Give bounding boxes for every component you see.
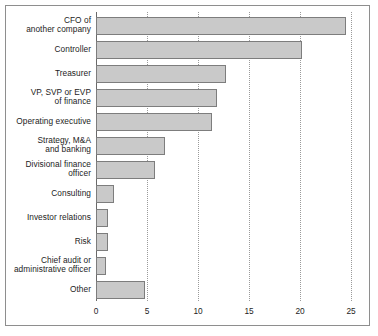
plot-area: CFO ofanother companyControllerTreasurer… — [96, 12, 366, 304]
category-label: Treasurer — [0, 69, 91, 78]
category-label: Divisional financeofficer — [0, 160, 91, 179]
tick-label-5: 5 — [145, 306, 150, 316]
tick-label-20: 20 — [295, 306, 304, 316]
category-label-line: Risk — [0, 237, 91, 246]
figure-frame: CFO ofanother companyControllerTreasurer… — [5, 5, 370, 326]
bar[interactable] — [96, 281, 145, 299]
gridline-25 — [351, 12, 352, 301]
tick-label-25: 25 — [346, 306, 355, 316]
category-label: Risk — [0, 237, 91, 246]
bar[interactable] — [96, 113, 212, 131]
category-label: Investor relations — [0, 213, 91, 222]
bar[interactable] — [96, 257, 106, 275]
category-label: Operating executive — [0, 117, 91, 126]
bars-canvas — [96, 12, 361, 301]
category-label-line: Treasurer — [0, 69, 91, 78]
bar[interactable] — [96, 233, 108, 251]
category-label: Strategy, M&Aand banking — [0, 136, 91, 155]
category-label-line: Operating executive — [0, 117, 91, 126]
bar[interactable] — [96, 17, 346, 35]
category-label-line: Consulting — [0, 189, 91, 198]
category-label-line: Controller — [0, 45, 91, 54]
category-label-line: Other — [0, 285, 91, 294]
category-label: Controller — [0, 45, 91, 54]
tick-label-15: 15 — [244, 306, 253, 316]
category-label-line: Investor relations — [0, 213, 91, 222]
bar[interactable] — [96, 65, 226, 83]
category-label: CFO ofanother company — [0, 16, 91, 35]
bar[interactable] — [96, 161, 155, 179]
chart-screenshot: CFO ofanother companyControllerTreasurer… — [0, 0, 378, 336]
category-label-line: officer — [0, 169, 91, 178]
bar[interactable] — [96, 89, 217, 107]
category-label: Other — [0, 285, 91, 294]
bar[interactable] — [96, 41, 302, 59]
category-axis-labels: CFO ofanother companyControllerTreasurer… — [0, 12, 91, 301]
category-label: Consulting — [0, 189, 91, 198]
category-label: VP, SVP or EVPof finance — [0, 88, 91, 107]
tick-label-0: 0 — [94, 306, 99, 316]
category-label-line: of finance — [0, 97, 91, 106]
category-label-line: another company — [0, 25, 91, 34]
tick-label-10: 10 — [193, 306, 202, 316]
bar[interactable] — [96, 137, 165, 155]
bar[interactable] — [96, 185, 114, 203]
bar[interactable] — [96, 209, 108, 227]
category-label: Chief audit oradministrative officer — [0, 256, 91, 275]
category-label-line: and banking — [0, 145, 91, 154]
category-label-line: administrative officer — [0, 265, 91, 274]
